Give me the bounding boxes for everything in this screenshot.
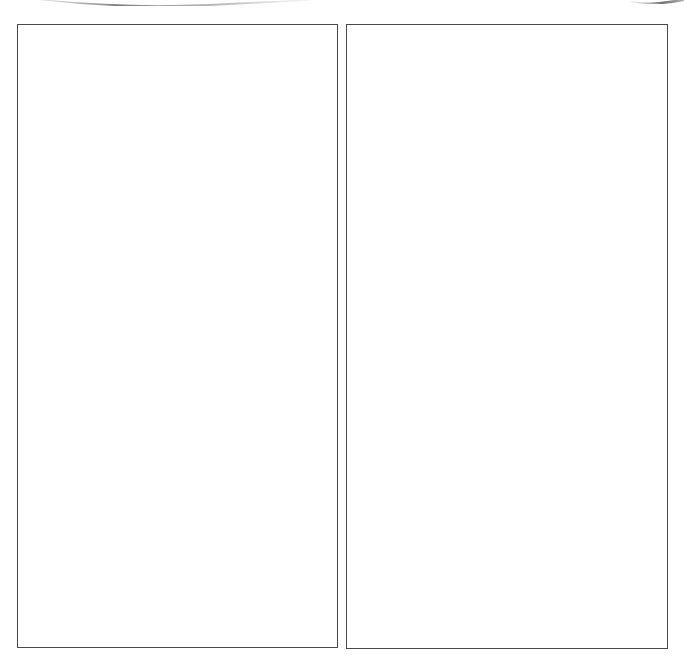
left-blank-panel [17, 24, 338, 648]
right-blank-panel [346, 24, 668, 649]
decorative-swoosh-left [30, 0, 320, 6]
left-panel-content [18, 25, 337, 647]
decorative-swoosh-right [630, 0, 684, 4]
right-panel-content [347, 25, 667, 648]
